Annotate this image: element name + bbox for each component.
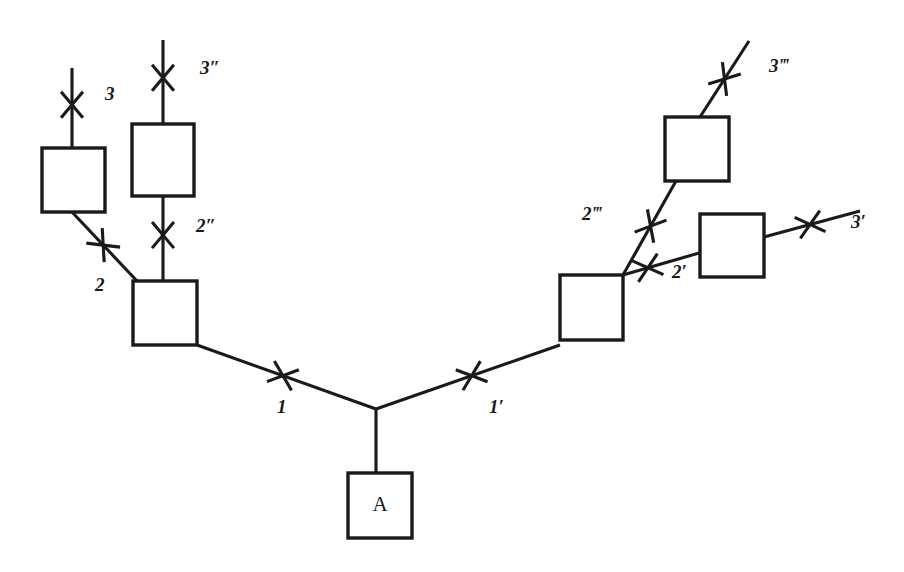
edge-line-e1 [197, 345, 376, 409]
tree-diagram-svg: A 11′22″33″2′2‴3′3‴ [0, 0, 904, 572]
edge-line-e1p [376, 345, 560, 409]
hatch-mark-e2p [632, 254, 663, 282]
hatch-mark-e1 [267, 361, 299, 390]
edge-label-e3pp: 3″ [199, 57, 220, 78]
edge-label-e3: 3 [104, 83, 115, 104]
nodes-layer: A [42, 117, 764, 538]
node-R1 [560, 275, 623, 340]
node-L1 [133, 281, 197, 345]
hatch-mark-e2ppp [635, 209, 667, 242]
edge-label-e2: 2 [94, 274, 105, 295]
node-R2ppp [665, 117, 729, 181]
node-R2p [700, 214, 764, 277]
edge-label-e2pp: 2″ [195, 215, 216, 236]
hatch-mark-e3p [795, 211, 826, 239]
node-box-R2ppp [665, 117, 729, 181]
node-box-L1 [133, 281, 197, 345]
node-label-A: A [372, 492, 388, 516]
node-box-L2 [42, 148, 105, 212]
edge-label-e3p: 3′ [850, 211, 866, 232]
edge-label-e2p: 2′ [671, 261, 687, 282]
node-L2 [42, 148, 105, 212]
node-L2pp [132, 124, 194, 196]
edge-label-e2ppp: 2‴ [581, 203, 603, 224]
edge-label-e1: 1 [277, 396, 287, 417]
node-box-R1 [560, 275, 623, 340]
node-box-R2p [700, 214, 764, 277]
hatch-mark-e1p [456, 361, 488, 390]
diagram-canvas: A 11′22″33″2′2‴3′3‴ [0, 0, 904, 572]
hatch-mark-e3ppp [708, 62, 740, 96]
edge-label-e1p: 1′ [489, 396, 504, 417]
edge-label-e3ppp: 3‴ [768, 55, 790, 76]
node-A: A [348, 473, 412, 538]
node-box-L2pp [132, 124, 194, 196]
